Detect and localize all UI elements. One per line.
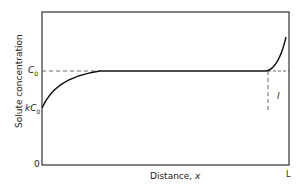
x-end-label: L [286, 170, 290, 179]
zero-tick: 0 [34, 159, 40, 169]
length-label: l [277, 91, 280, 101]
plot-frame [42, 12, 289, 165]
y-axis-label: Solute concentration [14, 28, 24, 128]
concentration-curve [42, 37, 286, 108]
plot-area [0, 0, 303, 185]
kc0-tick: kC0 [25, 103, 40, 115]
c0-tick: C0 [28, 65, 38, 77]
x-axis-label: Distance, x [150, 171, 200, 181]
